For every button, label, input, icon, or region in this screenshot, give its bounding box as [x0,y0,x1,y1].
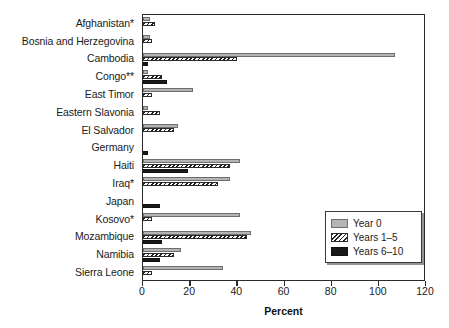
bar-year-0 [143,177,230,181]
y-axis-label: Iraq* [0,174,138,192]
bar-years-6-10 [143,240,162,244]
bar-year-0 [143,124,178,128]
bar-years-1-5 [143,22,155,26]
bar-year-0 [143,159,240,163]
bar-years-1-5 [143,217,152,221]
legend-swatch-years-6-10 [331,247,348,256]
x-axis-tick-label: 0 [122,285,162,297]
bar-years-6-10 [143,151,148,155]
bar-year-0 [143,248,181,252]
bar-years-6-10 [143,204,160,208]
bar-year-0 [143,106,148,110]
x-axis-tick-label: 40 [216,285,256,297]
bar-group [143,264,424,281]
y-axis-label: Sierra Leone [0,263,138,281]
bar-group [143,175,424,193]
legend-swatch-years-1-5 [331,233,348,242]
bar-year-0 [143,17,150,21]
y-axis-label: Haiti [0,156,138,174]
x-axis-tick-label: 80 [311,285,351,297]
bar-years-1-5 [143,39,152,43]
bar-group [143,33,424,51]
bar-years-1-5 [143,75,162,79]
x-axis-tick-label: 120 [405,285,445,297]
bar-group [143,122,424,140]
y-axis-label: East Timor [0,85,138,103]
bar-group [143,86,424,104]
bar-years-6-10 [143,258,160,262]
bar-group [143,15,424,33]
bar-years-1-5 [143,57,237,61]
bar-year-0 [143,53,395,57]
bar-years-1-5 [143,93,152,97]
bar-years-1-5 [143,253,174,257]
y-axis-label: Bosnia and Herzegovina [0,32,138,50]
bar-years-1-5 [143,182,218,186]
legend-item-years-6-10: Years 6–10 [331,244,416,258]
legend-swatch-year-0 [331,219,348,228]
x-axis-tick-label: 100 [358,285,398,297]
y-axis-label: Japan [0,192,138,210]
bar-chart: Afghanistan*Bosnia and HerzegovinaCambod… [0,0,449,328]
chart-legend: Year 0 Years 1–5 Years 6–10 [325,211,422,263]
legend-item-years-1-5: Years 1–5 [331,230,416,244]
bar-years-6-10 [143,62,148,66]
y-axis-label: Cambodia [0,50,138,68]
y-axis-label: Eastern Slavonia [0,103,138,121]
legend-label-years-6-10: Years 6–10 [353,246,403,257]
bar-group [143,104,424,122]
y-axis-label: El Salvador [0,121,138,139]
bar-year-0 [143,88,193,92]
bar-year-0 [143,231,251,235]
bar-year-0 [143,35,150,39]
x-axis-tick-labels: 020406080100120 [0,285,449,299]
bar-group [143,193,424,211]
y-axis-label: Namibia [0,245,138,263]
legend-label-year-0: Year 0 [353,218,382,229]
x-axis-tick-label: 20 [169,285,209,297]
y-axis-label: Kosovo* [0,210,138,228]
bar-group [143,51,424,69]
y-axis-category-labels: Afghanistan*Bosnia and HerzegovinaCambod… [0,14,138,281]
legend-item-year-0: Year 0 [331,216,416,230]
y-axis-label: Afghanistan* [0,14,138,32]
bar-years-6-10 [143,169,188,173]
bar-group [143,157,424,175]
bar-years-1-5 [143,111,160,115]
bar-group [143,140,424,158]
y-axis-label: Germany [0,139,138,157]
y-axis-label: Mozambique [0,228,138,246]
x-axis-title: Percent [142,305,425,317]
bar-year-0 [143,70,148,74]
bar-years-1-5 [143,128,174,132]
bar-group [143,68,424,86]
bar-years-1-5 [143,164,230,168]
legend-label-years-1-5: Years 1–5 [353,232,398,243]
bar-years-1-5 [143,235,247,239]
bar-years-1-5 [143,271,152,275]
x-axis-tick-label: 60 [264,285,304,297]
bar-years-6-10 [143,80,167,84]
y-axis-label: Congo** [0,67,138,85]
bar-year-0 [143,213,240,217]
bar-year-0 [143,266,223,270]
